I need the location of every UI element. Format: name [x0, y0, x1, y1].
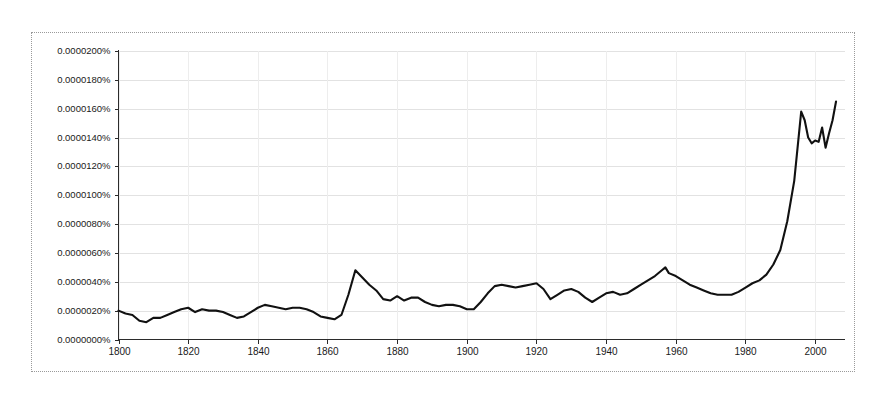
x-tick-label: 1800	[108, 346, 131, 357]
y-tick-label: 0.0000120%	[57, 160, 111, 171]
y-tick-label: 0.0000020%	[57, 305, 111, 316]
gridlines-horizontal	[119, 52, 846, 312]
x-tick-label: 1840	[247, 346, 270, 357]
y-tick-label: 0.0000160%	[57, 103, 111, 114]
x-tick-label: 1880	[386, 346, 409, 357]
series-line-frequency	[119, 101, 837, 322]
y-tick-label: 0.0000040%	[57, 276, 111, 287]
y-tick-label: 0.0000200%	[57, 45, 111, 56]
x-tick-label: 1820	[177, 346, 200, 357]
y-tick-label: 0.0000080%	[57, 218, 111, 229]
x-tick-label: 1960	[665, 346, 688, 357]
x-tick-label: 1980	[734, 346, 757, 357]
ngram-frequency-chart: 0.0000200%0.0000180%0.0000160%0.0000140%…	[0, 0, 878, 406]
y-tick-label: 0.0000100%	[57, 189, 111, 200]
x-tick-labels: 1800182018401860188019001920194019601980…	[108, 346, 827, 357]
y-tick-label: 0.0000060%	[57, 247, 111, 258]
y-tick-label: 0.0000140%	[57, 132, 111, 143]
x-tick-label: 1900	[456, 346, 479, 357]
y-tick-labels: 0.0000200%0.0000180%0.0000160%0.0000140%…	[57, 45, 111, 345]
x-tick-label: 1940	[595, 346, 618, 357]
data-series-line	[119, 101, 837, 322]
x-tick-label: 1860	[316, 346, 339, 357]
x-tick-label: 2000	[804, 346, 827, 357]
chart-container: 0.0000200%0.0000180%0.0000160%0.0000140%…	[0, 0, 878, 406]
y-tick-label: 0.0000000%	[57, 334, 111, 345]
y-tick-label: 0.0000180%	[57, 74, 111, 85]
x-tick-label: 1920	[525, 346, 548, 357]
